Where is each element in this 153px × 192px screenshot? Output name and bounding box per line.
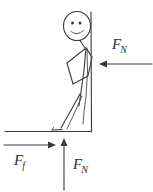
eye-left-icon xyxy=(71,22,74,25)
eye-right-icon xyxy=(79,22,82,25)
wall-line xyxy=(91,12,92,132)
normal-force-wall-label: FN xyxy=(112,36,127,55)
normal-force-ground-arrowhead xyxy=(61,138,68,146)
free-body-diagram: FN Ff FN xyxy=(0,0,153,192)
friction-force-arrow xyxy=(4,142,56,149)
smile xyxy=(71,31,84,34)
scene-group xyxy=(5,12,92,132)
friction-force-arrowhead xyxy=(48,142,56,149)
normal-force-ground-label: FN xyxy=(73,156,88,175)
normal-force-wall-label-subscript: N xyxy=(120,44,127,55)
normal-force-wall-arrow xyxy=(99,61,152,68)
arms-diamond xyxy=(67,48,92,84)
neck xyxy=(80,41,85,49)
friction-force-label: Ff xyxy=(14,152,25,171)
leg-front xyxy=(61,94,80,128)
torso xyxy=(79,48,86,106)
normal-force-wall-arrowhead xyxy=(99,61,107,68)
friction-force-label-subscript: f xyxy=(22,160,25,171)
stick-figure xyxy=(52,12,92,131)
head xyxy=(64,12,91,41)
foot xyxy=(52,130,62,131)
normal-force-ground-label-subscript: N xyxy=(81,164,88,175)
normal-force-ground-arrow xyxy=(61,138,68,190)
